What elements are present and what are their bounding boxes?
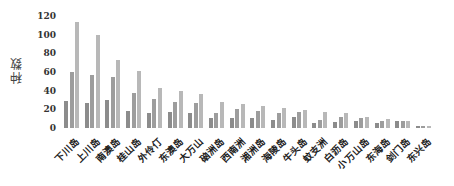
bar <box>90 75 94 128</box>
y-tick-label: 80 <box>30 48 56 58</box>
bar <box>277 113 281 128</box>
bar <box>230 118 234 128</box>
y-tick-label: 20 <box>30 104 56 114</box>
bar <box>365 117 369 128</box>
bar <box>214 113 218 128</box>
y-tick-label: 0 <box>30 123 56 133</box>
y-tick-label: 40 <box>30 86 56 96</box>
bar <box>344 113 348 128</box>
bar <box>416 126 420 128</box>
bar <box>333 122 337 128</box>
bar <box>105 100 109 128</box>
bar <box>303 110 307 128</box>
bar <box>64 101 68 128</box>
bar <box>199 94 203 128</box>
bar <box>386 119 390 128</box>
bar <box>126 111 130 128</box>
bar <box>132 93 136 128</box>
bar <box>297 112 301 128</box>
bar <box>292 117 296 128</box>
bar <box>209 118 213 128</box>
bar <box>421 126 425 128</box>
bar <box>323 112 327 128</box>
bar <box>116 60 120 128</box>
bar <box>256 111 260 128</box>
y-tick-label: 60 <box>30 67 56 77</box>
bar <box>282 108 286 128</box>
bar <box>380 121 384 128</box>
bar <box>188 113 192 128</box>
bar <box>75 22 79 128</box>
bar <box>173 102 177 128</box>
y-axis-label: 种数 <box>8 56 22 84</box>
bar <box>339 117 343 128</box>
bar <box>271 120 275 128</box>
bar <box>401 121 405 128</box>
bar <box>375 123 379 128</box>
bar <box>318 120 322 128</box>
bar <box>354 121 358 128</box>
bar <box>168 112 172 128</box>
bar <box>70 72 74 128</box>
bar <box>241 104 245 128</box>
bar <box>261 106 265 128</box>
bar <box>147 113 151 128</box>
bar <box>152 99 156 128</box>
bar <box>406 121 410 128</box>
bar <box>395 121 399 128</box>
bar <box>96 35 100 128</box>
bar <box>220 102 224 128</box>
bar <box>359 118 363 128</box>
y-tick-label: 120 <box>30 11 56 21</box>
bar <box>235 109 239 128</box>
bar <box>194 103 198 128</box>
bar-chart: 种数 020406080100120 下川岛上川岛南澳岛桂山岛外伶仃东澳岛大万山… <box>0 0 454 186</box>
bar <box>179 91 183 128</box>
bar <box>137 71 141 128</box>
bar <box>312 123 316 128</box>
bar <box>250 118 254 128</box>
bar <box>85 103 89 128</box>
y-tick-label: 100 <box>30 30 56 40</box>
bar <box>111 77 115 128</box>
bar <box>427 126 431 128</box>
bar <box>158 88 162 128</box>
